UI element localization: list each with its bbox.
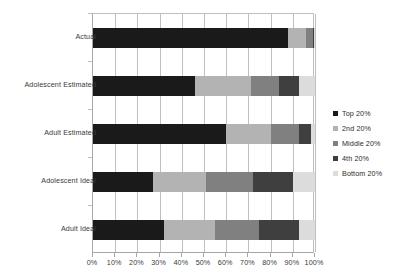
legend-label: Middle 20% [342,139,381,148]
bar-segment [206,172,253,192]
legend-swatch-icon [333,111,338,116]
bar-segment [153,172,206,192]
category-label: Adolescent Estimated [24,80,96,89]
legend-item[interactable]: 4th 20% [333,151,382,166]
value-axis-tick-label: 100% [302,258,326,267]
bar-segment [271,124,300,144]
category-label: Adult Ideal [61,224,96,233]
legend-label: Top 20% [342,109,371,118]
stacked-bar [93,28,315,48]
stacked-bar [93,76,315,96]
legend-item[interactable]: 2nd 20% [333,121,382,136]
bar-segment [93,124,226,144]
legend-swatch-icon [333,171,338,176]
gridline [315,14,316,252]
bar-segment [311,124,315,144]
value-axis-tick-label: 90% [280,258,304,267]
bar-segment [299,124,310,144]
category-label: Adult Estimated [44,128,96,137]
axis-tick [292,253,293,257]
bar-segment [306,28,313,48]
axis-tick [314,253,315,257]
legend-label: Bottom 20% [342,169,382,178]
axis-tick [88,61,92,62]
axis-tick [88,13,92,14]
axis-tick [203,253,204,257]
category-label: Adolescent Ideal [41,176,96,185]
bar-segment [93,220,164,240]
category-label: Actual [75,32,96,41]
bar-segment [93,76,195,96]
axis-tick [92,253,93,257]
value-axis-tick-label: 40% [169,258,193,267]
bar-segment [93,28,288,48]
plot-area [92,13,314,253]
axis-tick [159,253,160,257]
axis-tick [247,253,248,257]
legend-swatch-icon [333,156,338,161]
bar-segment [279,76,299,96]
bar-segment [253,172,293,192]
bar-segment [259,220,299,240]
axis-tick [88,157,92,158]
legend-item[interactable]: Top 20% [333,106,382,121]
bar-segment [293,172,315,192]
legend-swatch-icon [333,141,338,146]
stacked-bar-chart: ActualAdolescent EstimatedAdult Estimate… [0,0,402,278]
bar-segment [299,76,315,96]
bar-segment [288,28,306,48]
stacked-bar [93,172,315,192]
axis-tick [88,205,92,206]
bar-segment [314,28,315,48]
legend-item[interactable]: Middle 20% [333,136,382,151]
bar-segment [93,172,153,192]
legend-swatch-icon [333,126,338,131]
legend-item[interactable]: Bottom 20% [333,166,382,181]
bar-segment [215,220,259,240]
legend-label: 4th 20% [342,154,369,163]
axis-tick [136,253,137,257]
stacked-bar [93,124,315,144]
axis-tick [270,253,271,257]
value-axis-tick-label: 70% [235,258,259,267]
axis-tick [181,253,182,257]
bar-segment [226,124,270,144]
value-axis-tick-label: 10% [102,258,126,267]
bar-segment [299,220,315,240]
value-axis-tick-label: 80% [258,258,282,267]
bar-segment [195,76,251,96]
value-axis-tick-label: 30% [147,258,171,267]
value-axis-tick-label: 50% [191,258,215,267]
stacked-bar [93,220,315,240]
bar-segment [251,76,280,96]
chart-legend: Top 20%2nd 20%Middle 20%4th 20%Bottom 20… [333,106,382,181]
legend-label: 2nd 20% [342,124,371,133]
axis-tick [88,109,92,110]
bar-segment [164,220,215,240]
value-axis-tick-label: 20% [124,258,148,267]
value-axis-tick-label: 60% [213,258,237,267]
value-axis-tick-label: 0% [80,258,104,267]
axis-tick [114,253,115,257]
axis-tick [225,253,226,257]
